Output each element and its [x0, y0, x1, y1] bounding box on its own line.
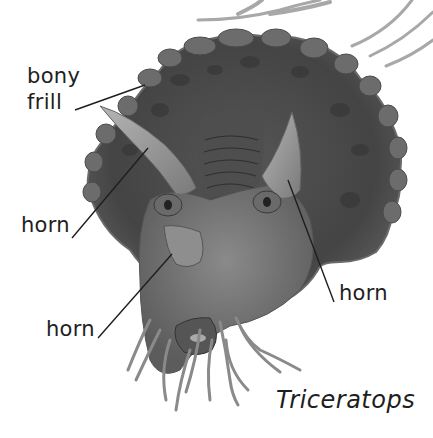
- label-left-brow-horn: horn: [21, 212, 70, 238]
- label-bony-frill-line1: bony: [27, 63, 80, 89]
- label-nose-horn: horn: [46, 316, 95, 342]
- label-bony-frill: bony frill: [27, 63, 80, 115]
- diagram-title: Triceratops: [276, 386, 415, 414]
- triceratops-diagram: bony frill horn horn horn Triceratops: [0, 0, 433, 438]
- label-bony-frill-line2: frill: [27, 89, 80, 115]
- label-right-brow-horn: horn: [339, 280, 388, 306]
